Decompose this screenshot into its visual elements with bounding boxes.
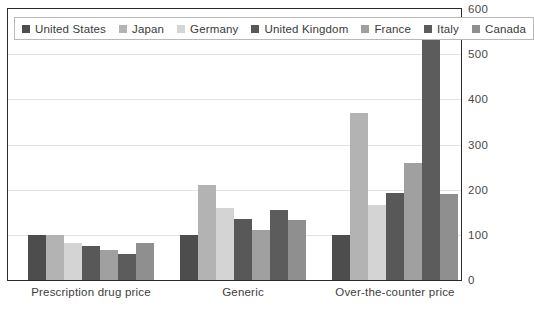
legend-label: Italy — [437, 23, 459, 35]
bar — [350, 113, 368, 280]
legend-label: Japan — [132, 23, 164, 35]
y-tick-label: 0 — [468, 274, 475, 286]
bar — [82, 246, 100, 280]
category-label: Prescription drug price — [31, 286, 151, 298]
legend-label: Germany — [190, 23, 238, 35]
legend-item[interactable]: Japan — [119, 23, 164, 35]
bar — [198, 185, 216, 280]
legend-label: France — [374, 23, 411, 35]
legend-item[interactable]: France — [361, 23, 411, 35]
bar — [234, 219, 252, 280]
legend-item[interactable]: United States — [22, 23, 106, 35]
x-axis-category-labels: Prescription drug priceGenericOver-the-c… — [0, 286, 500, 308]
legend-label: United States — [35, 23, 106, 35]
y-tick-label: 500 — [468, 48, 488, 60]
bar — [332, 235, 350, 280]
bar — [288, 220, 306, 280]
legend-label: Canada — [485, 23, 526, 35]
bars-layer — [8, 9, 461, 280]
bar — [440, 194, 458, 280]
bar — [180, 235, 198, 280]
bar — [216, 208, 234, 280]
legend-swatch-icon — [251, 25, 259, 33]
bar — [136, 243, 154, 280]
legend-swatch-icon — [119, 25, 127, 33]
legend-swatch-icon — [472, 25, 480, 33]
legend-item[interactable]: Italy — [424, 23, 459, 35]
bar — [404, 163, 422, 280]
bar — [64, 243, 82, 280]
bar — [46, 235, 64, 280]
legend-swatch-icon — [22, 25, 30, 33]
y-tick-label: 600 — [468, 3, 488, 15]
chart-legend: United StatesJapanGermanyUnited KingdomF… — [14, 17, 534, 40]
legend-label: United Kingdom — [264, 23, 348, 35]
bar — [386, 193, 404, 280]
category-label: Over-the-counter price — [335, 286, 454, 298]
bar — [28, 235, 46, 280]
legend-swatch-icon — [424, 25, 432, 33]
y-tick-label: 100 — [468, 229, 488, 241]
bar-group — [332, 9, 458, 280]
legend-swatch-icon — [177, 25, 185, 33]
bar — [368, 205, 386, 280]
y-tick-label: 400 — [468, 93, 488, 105]
bar-group — [180, 9, 306, 280]
bar-group — [28, 9, 154, 280]
plot-area — [8, 9, 461, 280]
bar — [252, 230, 270, 280]
category-label: Generic — [222, 286, 264, 298]
bar — [422, 34, 440, 280]
bar — [118, 254, 136, 280]
bar — [270, 210, 288, 280]
legend-item[interactable]: United Kingdom — [251, 23, 348, 35]
legend-swatch-icon — [361, 25, 369, 33]
y-tick-label: 200 — [468, 184, 488, 196]
y-axis: 0100200300400500600 — [468, 0, 500, 311]
legend-item[interactable]: Canada — [472, 23, 526, 35]
y-tick-label: 300 — [468, 139, 488, 151]
bar — [100, 250, 118, 280]
legend-item[interactable]: Germany — [177, 23, 238, 35]
